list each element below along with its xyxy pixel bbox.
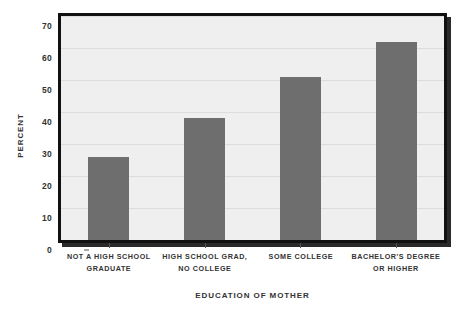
bar-chart-figure: Percent 010203040506070 Not a High Schoo… (0, 0, 457, 312)
y-axis-tick-label: 20 (42, 181, 52, 191)
y-axis-tick-label: 30 (42, 149, 52, 159)
y-axis-tick-label: 70 (42, 21, 52, 31)
x-axis-category-label-line2: Graduate (53, 263, 165, 275)
plot-area (61, 16, 444, 240)
x-axis-tick-mark (396, 243, 397, 248)
y-axis-tick-label: 50 (42, 85, 52, 95)
x-axis-category-label: Not a High SchoolGraduate (53, 251, 165, 274)
bar-series (61, 16, 444, 240)
x-axis-tick-marks (58, 243, 447, 249)
bar (376, 42, 417, 240)
y-axis-tick-label: 0 (47, 245, 52, 255)
plot-frame (58, 13, 447, 243)
x-axis-category-label: High School Grad,No College (149, 251, 261, 274)
x-axis-tick-mark (300, 243, 301, 248)
bar (88, 157, 129, 240)
y-axis-tick-labels: 010203040506070 (30, 13, 52, 242)
x-axis-category-labels: Not a High SchoolGraduateHigh School Gra… (58, 251, 447, 285)
x-axis-category-label-line1: Some College (269, 252, 334, 261)
y-axis-title-label: Percent (16, 113, 25, 158)
x-axis-tick-mark (205, 243, 206, 248)
y-axis-tick-label: 60 (42, 53, 52, 63)
y-axis-title: Percent (10, 95, 30, 175)
y-axis-tick-label: 40 (42, 117, 52, 127)
x-axis-tick-mark (109, 243, 110, 248)
x-axis-category-label-line1: Bachelor's Degree (351, 252, 440, 261)
x-axis-category-label-line2: or Higher (340, 263, 452, 275)
bar (280, 77, 321, 240)
y-axis-tick-label: 10 (42, 213, 52, 223)
x-axis-category-label-line1: Not a High School (67, 252, 151, 261)
x-axis-category-label: Bachelor's Degreeor Higher (340, 251, 452, 274)
bar (184, 118, 225, 240)
x-axis-category-label-line2: No College (149, 263, 261, 275)
x-axis-category-label-line1: High School Grad, (162, 252, 247, 261)
x-axis-title: Education of Mother (58, 291, 447, 300)
